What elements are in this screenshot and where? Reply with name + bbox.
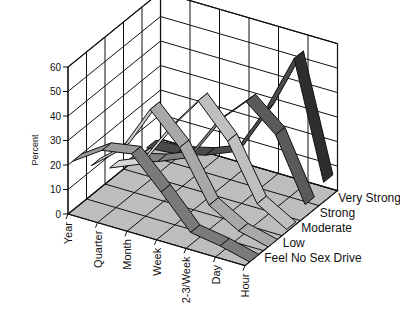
x-tick-label: Day: [210, 265, 222, 285]
x-tick-label: Month: [121, 239, 133, 270]
x-tick: [214, 257, 216, 262]
series-label: Feel No Sex Drive: [264, 251, 362, 265]
series-label: Strong: [320, 206, 355, 220]
y-tick-label: 60: [50, 62, 62, 73]
y-tick-label: 40: [50, 111, 62, 122]
series-label: Moderate: [301, 221, 352, 235]
x-tick: [243, 266, 245, 271]
x-tick-label: Quarter: [92, 230, 104, 268]
x-tick-label: Week: [151, 247, 163, 275]
y-tick-label: 0: [55, 209, 61, 220]
x-tick: [96, 223, 98, 228]
y-tick-label: 50: [50, 86, 62, 97]
x-tick-label: Year: [62, 222, 74, 245]
x-tick: [66, 214, 68, 219]
ribbon-chart: 0102030405060PercentYearQuarterMonthWeek…: [0, 0, 400, 334]
series-label: Very Strong: [338, 191, 400, 205]
y-tick-label: 20: [50, 160, 62, 171]
x-tick-label: Hour: [239, 273, 251, 297]
y-tick-label: 30: [50, 135, 62, 146]
x-tick: [155, 240, 157, 245]
x-tick-label: 2-3/Week: [180, 256, 192, 303]
series-label: Low: [283, 236, 305, 250]
x-tick: [125, 231, 127, 236]
y-axis-label: Percent: [30, 134, 40, 166]
y-tick-label: 10: [50, 184, 62, 195]
x-tick: [184, 248, 186, 253]
